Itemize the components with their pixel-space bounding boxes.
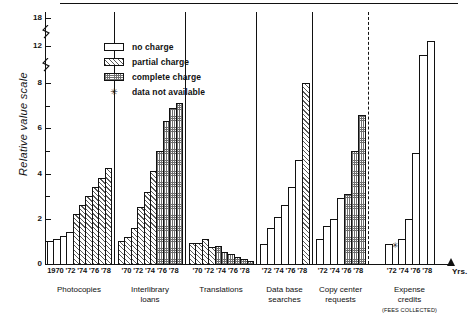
y-tick-label-8: 8: [22, 79, 42, 87]
group-separator: [368, 12, 369, 264]
group-caption-line1: Interlibrary: [131, 285, 169, 294]
group-caption-line2: credits: [398, 295, 422, 304]
bars-container: [316, 12, 365, 264]
bar-group-expense-credits: ✳: [385, 12, 434, 264]
legend-label-partial-charge: partial charge: [132, 57, 189, 67]
group-separator: [256, 12, 257, 264]
y-tick-label-18: 18: [22, 14, 42, 22]
bars-container: [47, 12, 111, 264]
x-axis-arrow-icon: [447, 258, 455, 266]
bars-container: ✳: [385, 12, 434, 264]
legend: no charge partial charge complete charge…: [104, 40, 205, 100]
bar-group-copy-center-requests: [316, 12, 365, 264]
group-separator: [312, 12, 313, 264]
x-axis-line: [45, 264, 451, 265]
x-tick-label-group-1: '70 '72 '74 '76 '78: [111, 266, 189, 275]
bar: [105, 168, 112, 264]
legend-item-no-charge: no charge: [104, 40, 205, 53]
y-tick-label-6: 6: [22, 124, 42, 132]
chart-root: Relative value scale 024681218 ✳ Yrs. 19…: [0, 0, 471, 318]
bars-container: [260, 12, 309, 264]
legend-label-complete-charge: complete charge: [132, 72, 201, 82]
group-caption-line2: loans: [140, 295, 159, 304]
legend-item-complete-charge: complete charge: [104, 70, 205, 83]
bar: [358, 115, 366, 264]
group-caption-line2: requests: [325, 295, 356, 304]
legend-item-partial-charge: partial charge: [104, 55, 205, 68]
legend-label-no-charge: no charge: [132, 42, 174, 52]
legend-label-not-available: data not available: [132, 87, 205, 97]
x-tick-label-group-0: 1970 '72 '74 '76 '78: [40, 266, 118, 275]
legend-item-not-available: ✳ data not available: [104, 85, 205, 98]
group-caption-line1: Expense: [394, 285, 425, 294]
bar: [302, 83, 310, 264]
x-tick-label-group-2: '70 '72 '74 '76 '78: [182, 266, 260, 275]
group-caption-line1: Photocopies: [57, 285, 101, 294]
group-caption-line2: searches: [268, 295, 300, 304]
bar: [176, 103, 183, 264]
y-tick-label-4: 4: [22, 170, 42, 178]
x-axis-unit-label: Yrs.: [452, 267, 467, 276]
bar-group-photocopies: [47, 12, 111, 264]
bar: [427, 41, 435, 264]
x-tick-label-group-5: '72 '74 '76 '78: [378, 266, 441, 275]
y-tick-label-0: 0: [22, 260, 42, 268]
x-tick-label-group-4: '72 '74 '76 '78: [309, 266, 372, 275]
y-tick-label-2: 2: [22, 215, 42, 223]
group-caption-subnote: (FEES COLLECTED): [382, 307, 437, 313]
group-caption-line1: Data base: [266, 285, 302, 294]
group-caption-4: Copy centerrequests: [302, 285, 379, 305]
legend-swatch-no-charge-icon: [104, 43, 124, 51]
bar-group-data-base-searches: [260, 12, 309, 264]
group-caption-5: Expensecredits(FEES COLLECTED): [371, 285, 448, 315]
y-tick-label-12: 12: [22, 42, 42, 50]
group-caption-line1: Copy center: [319, 285, 362, 294]
x-tick-label-group-3: '72 '74 '76 '78: [253, 266, 316, 275]
group-caption-line1: Translations: [199, 285, 242, 294]
top-rule: [60, 3, 458, 4]
legend-swatch-partial-charge-icon: [104, 58, 124, 66]
asterisk-icon: ✳: [104, 88, 124, 96]
legend-swatch-complete-charge-icon: [104, 73, 124, 81]
